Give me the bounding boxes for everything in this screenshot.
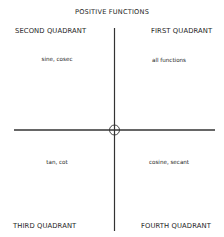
first-quadrant-label: FIRST QUADRANT [151,27,212,35]
first-quadrant-functions: all functions [114,57,224,63]
diagram-title: POSITIVE FUNCTIONS [0,8,224,16]
fourth-quadrant-label: FOURTH QUADRANT [141,222,211,230]
axes-diagram [0,0,224,237]
second-quadrant-functions: sine, cosec [0,56,114,62]
second-quadrant-label: SECOND QUADRANT [15,27,86,35]
third-quadrant-label: THIRD QUADRANT [13,222,76,230]
fourth-quadrant-functions: cosine, secant [114,159,224,165]
third-quadrant-functions: tan, cot [0,159,114,165]
